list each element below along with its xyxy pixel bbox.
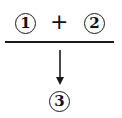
- label-2: 2: [89, 16, 99, 31]
- label-3: 3: [54, 94, 64, 109]
- circled-number-2: 2: [84, 13, 105, 34]
- fraction-line: [5, 41, 114, 43]
- plus-sign: +: [50, 11, 68, 33]
- label-1: 1: [20, 16, 30, 31]
- down-arrow-icon: [55, 50, 65, 86]
- circled-number-3: 3: [49, 91, 70, 112]
- circled-number-1: 1: [15, 13, 36, 34]
